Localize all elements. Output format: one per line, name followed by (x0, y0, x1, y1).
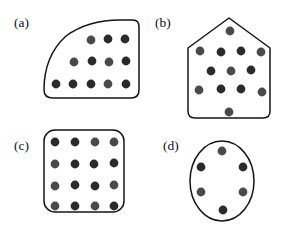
panel-label-b: (b) (155, 15, 171, 30)
point-dot (196, 47, 205, 56)
point-dot (217, 85, 226, 94)
point-dot (239, 163, 248, 172)
point-dot (51, 138, 60, 147)
point-dot (51, 182, 60, 191)
point-dot (122, 57, 131, 66)
point-dot (51, 202, 60, 211)
panel-label-c: (c) (14, 138, 29, 153)
point-dot (207, 67, 216, 76)
point-dot (71, 181, 80, 190)
point-dot (218, 147, 227, 156)
point-configurations-figure: (a)(b)(c)(d) (0, 0, 284, 234)
point-dot (226, 27, 235, 36)
point-dot (91, 182, 100, 191)
point-dot (219, 206, 228, 215)
point-dot (122, 80, 131, 89)
point-dot (197, 163, 206, 172)
point-dot (110, 181, 119, 190)
point-dot (195, 86, 204, 95)
point-dot (91, 138, 100, 147)
point-dot (70, 58, 79, 67)
point-dot (51, 160, 60, 169)
point-dot (91, 202, 100, 211)
point-dot (217, 48, 226, 57)
point-dot (197, 188, 206, 197)
point-dot (104, 80, 113, 89)
point-dot (105, 58, 114, 67)
point-dot (87, 80, 96, 89)
panel-label-d: (d) (163, 138, 179, 153)
point-dot (227, 67, 236, 76)
point-dot (110, 138, 119, 147)
point-dot (121, 35, 130, 44)
point-dot (52, 80, 61, 89)
point-dot (90, 160, 99, 169)
point-dot (257, 48, 266, 57)
point-dot (237, 47, 246, 56)
point-dot (247, 66, 256, 75)
point-dot (88, 57, 97, 66)
point-dot (110, 202, 119, 211)
point-dot (239, 188, 248, 197)
point-dot (104, 35, 113, 44)
point-dot (71, 138, 80, 147)
point-dot (71, 202, 80, 211)
panel-label-a: (a) (14, 15, 29, 30)
point-dot (258, 88, 267, 97)
point-dot (110, 159, 119, 168)
figure-container: (a)(b)(c)(d) (0, 0, 284, 234)
point-dot (87, 36, 96, 45)
point-dot (71, 160, 80, 169)
point-dot (237, 85, 246, 94)
point-dot (225, 108, 234, 117)
point-dot (69, 80, 78, 89)
